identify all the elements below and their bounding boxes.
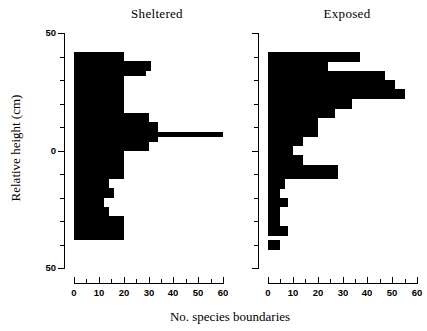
x-tick-label-exposed: 50: [379, 287, 405, 298]
x-tick-sheltered: [211, 279, 212, 283]
y-tick-label: 50: [30, 27, 56, 38]
x-tick-sheltered: [99, 277, 100, 283]
x-tick-label-exposed: 10: [280, 287, 306, 298]
y-tick-label: 50: [30, 262, 56, 273]
panel-title-exposed: Exposed: [292, 6, 402, 22]
bar-exposed: [268, 245, 280, 250]
y-tick-exposed: [254, 80, 258, 81]
y-axis-sheltered: [64, 33, 65, 269]
x-tick-label-sheltered: 30: [136, 287, 162, 298]
plot-area-sheltered: [74, 33, 224, 269]
x-tick-sheltered: [136, 279, 137, 283]
x-tick-sheltered: [111, 279, 112, 283]
x-tick-exposed: [268, 277, 269, 283]
x-axis-sheltered: [74, 283, 224, 284]
y-tick-exposed: [254, 127, 258, 128]
x-tick-sheltered: [149, 277, 150, 283]
y-tick-exposed: [254, 245, 258, 246]
x-tick-label-sheltered: 60: [210, 287, 236, 298]
y-tick-exposed: [252, 33, 258, 34]
x-tick-exposed: [330, 279, 331, 283]
y-tick-exposed: [254, 221, 258, 222]
y-axis-label: Relative height (cm): [8, 48, 24, 248]
x-tick-sheltered: [173, 277, 174, 283]
panel-title-sheltered: Sheltered: [102, 6, 212, 22]
y-tick-sheltered: [58, 151, 64, 152]
y-tick-sheltered: [60, 57, 64, 58]
plot-area-exposed: [268, 33, 418, 269]
bar-exposed: [268, 230, 288, 235]
y-tick-sheltered: [58, 268, 64, 269]
y-tick-sheltered: [60, 104, 64, 105]
x-tick-label-exposed: 30: [330, 287, 356, 298]
bar-sheltered: [74, 235, 124, 240]
y-tick-label: 0: [30, 145, 56, 156]
x-tick-sheltered: [186, 279, 187, 283]
x-tick-exposed: [280, 279, 281, 283]
x-tick-label-exposed: 0: [255, 287, 281, 298]
x-tick-exposed: [305, 279, 306, 283]
x-tick-exposed: [343, 277, 344, 283]
x-tick-sheltered: [124, 277, 125, 283]
x-tick-sheltered: [86, 279, 87, 283]
y-tick-sheltered: [60, 245, 64, 246]
x-tick-sheltered: [223, 277, 224, 283]
x-tick-label-sheltered: 50: [185, 287, 211, 298]
x-tick-label-sheltered: 40: [160, 287, 186, 298]
y-tick-sheltered: [60, 80, 64, 81]
x-tick-exposed: [293, 277, 294, 283]
x-tick-label-sheltered: 0: [61, 287, 87, 298]
x-tick-exposed: [367, 277, 368, 283]
y-tick-exposed: [252, 268, 258, 269]
x-tick-sheltered: [198, 277, 199, 283]
x-tick-sheltered: [74, 277, 75, 283]
x-tick-exposed: [405, 279, 406, 283]
x-axis-exposed: [268, 283, 418, 284]
x-tick-exposed: [355, 279, 356, 283]
y-tick-sheltered: [60, 127, 64, 128]
y-tick-exposed: [254, 198, 258, 199]
x-tick-label-exposed: 20: [305, 287, 331, 298]
y-tick-exposed: [254, 57, 258, 58]
x-tick-label-sheltered: 20: [111, 287, 137, 298]
y-tick-exposed: [252, 151, 258, 152]
x-tick-exposed: [380, 279, 381, 283]
x-tick-label-exposed: 40: [354, 287, 380, 298]
x-tick-exposed: [417, 277, 418, 283]
y-tick-sheltered: [60, 174, 64, 175]
x-tick-label-exposed: 60: [404, 287, 427, 298]
y-tick-sheltered: [58, 33, 64, 34]
x-tick-label-sheltered: 10: [86, 287, 112, 298]
y-tick-exposed: [254, 174, 258, 175]
x-axis-label: No. species boundaries: [110, 309, 350, 325]
y-tick-exposed: [254, 104, 258, 105]
x-tick-sheltered: [161, 279, 162, 283]
y-tick-sheltered: [60, 198, 64, 199]
y-axis-exposed: [258, 33, 259, 269]
x-tick-exposed: [318, 277, 319, 283]
y-tick-sheltered: [60, 221, 64, 222]
x-tick-exposed: [392, 277, 393, 283]
